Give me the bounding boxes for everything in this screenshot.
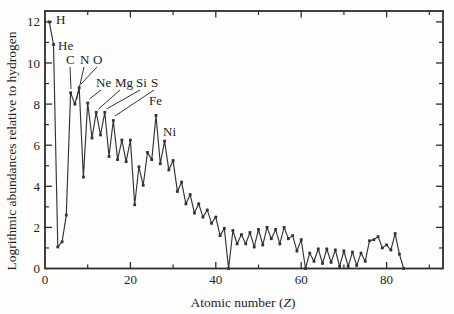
x-tick-label: 20 [124, 272, 137, 287]
data-point-marker [261, 243, 264, 246]
data-point-marker [112, 119, 115, 122]
data-point-marker [270, 237, 273, 240]
data-point-marker [244, 242, 247, 245]
data-point-marker [56, 246, 59, 249]
x-tick-label: 0 [42, 272, 49, 287]
data-point-marker [73, 103, 76, 106]
data-point-marker [180, 181, 183, 184]
data-point-marker [304, 267, 307, 270]
data-point-marker [61, 240, 64, 243]
data-point-marker [283, 226, 286, 229]
data-point-marker [185, 202, 188, 205]
data-point-marker [95, 111, 98, 114]
y-tick-label: 12 [27, 14, 40, 29]
data-point-marker [338, 265, 341, 268]
data-point-marker [86, 102, 89, 105]
data-point-marker [142, 184, 145, 187]
data-point-marker [155, 114, 158, 117]
annotation-leader-line-c [70, 67, 71, 89]
annotation-leader-line-n [77, 67, 85, 100]
data-point-marker [274, 228, 277, 231]
data-point-marker [325, 248, 328, 251]
data-point-marker [368, 239, 371, 242]
data-point-marker [300, 238, 303, 241]
data-point-marker [52, 43, 55, 46]
data-point-marker [398, 253, 401, 256]
data-point-marker [202, 216, 205, 219]
element-label-si: Si [136, 75, 147, 90]
data-point-marker [176, 190, 179, 193]
x-tick-label: 80 [380, 272, 393, 287]
chart-layers: 024681012020406080HHeCNONeMgSiSFeNi [27, 11, 443, 287]
y-tick-label: 10 [27, 56, 40, 71]
data-point-marker [223, 227, 226, 230]
data-point-marker [278, 242, 281, 245]
data-point-marker [172, 159, 175, 162]
x-axis-title-text: Atomic number ( [191, 295, 284, 310]
data-point-marker [210, 222, 213, 225]
data-point-marker [214, 216, 217, 219]
data-point-marker [227, 267, 230, 270]
y-tick-label: 6 [34, 138, 41, 153]
data-point-marker [389, 249, 392, 252]
data-point-marker [159, 162, 162, 165]
element-label-c: C [66, 52, 75, 67]
data-point-marker [334, 249, 337, 252]
plot-frame [45, 11, 443, 269]
data-point-marker [129, 139, 132, 142]
data-point-marker [219, 234, 222, 237]
data-point-marker [99, 134, 102, 137]
data-point-marker [163, 140, 166, 143]
data-point-marker [296, 250, 299, 253]
data-point-marker [257, 228, 260, 231]
x-axis-title: Atomic number (Z) [191, 295, 296, 310]
data-point-marker [240, 233, 243, 236]
data-point-marker [394, 232, 397, 235]
y-tick-label: 0 [34, 261, 41, 276]
annotation-leader-line-si [107, 90, 141, 109]
data-point-marker [385, 243, 388, 246]
data-point-marker [193, 212, 196, 215]
x-tick-label: 40 [209, 272, 222, 287]
data-point-marker [125, 160, 128, 163]
element-label-fe: Fe [149, 93, 162, 108]
annotation-leader-line-ne [90, 90, 102, 99]
y-tick-label: 2 [34, 220, 41, 235]
data-point-marker [65, 214, 68, 217]
data-point-marker [351, 251, 354, 254]
abundance-chart: 024681012020406080HHeCNONeMgSiSFeNi Atom… [0, 0, 454, 314]
element-label-o: O [93, 52, 102, 67]
data-point-marker [69, 91, 72, 94]
data-point-marker [253, 246, 256, 249]
element-label-h: H [56, 12, 65, 27]
element-label-ni: Ni [163, 124, 176, 139]
y-tick-label: 4 [34, 179, 41, 194]
data-point-marker [236, 242, 239, 245]
data-point-marker [167, 168, 170, 171]
data-point-marker [116, 158, 119, 161]
data-point-marker [364, 260, 367, 263]
annotation-leader-line-mg [99, 90, 121, 109]
abundance-curve [49, 22, 403, 269]
data-point-marker [249, 231, 252, 234]
data-point-marker [146, 151, 149, 154]
data-point-marker [313, 260, 316, 263]
data-point-marker [317, 248, 320, 251]
data-point-marker [347, 265, 350, 268]
data-point-marker [330, 261, 333, 264]
data-point-marker [308, 252, 311, 255]
data-point-marker [381, 247, 384, 250]
data-point-marker [189, 193, 192, 196]
x-tick-label: 60 [295, 272, 308, 287]
data-point-marker [138, 165, 141, 168]
data-point-marker [287, 237, 290, 240]
y-tick-label: 8 [34, 97, 41, 112]
data-point-marker [48, 21, 51, 24]
element-label-he: He [58, 38, 73, 53]
data-point-marker [91, 137, 94, 140]
data-point-marker [197, 202, 200, 205]
element-label-mg: Mg [115, 75, 134, 90]
element-label-s: S [151, 75, 158, 90]
element-label-n: N [80, 52, 90, 67]
data-point-marker [231, 229, 234, 232]
